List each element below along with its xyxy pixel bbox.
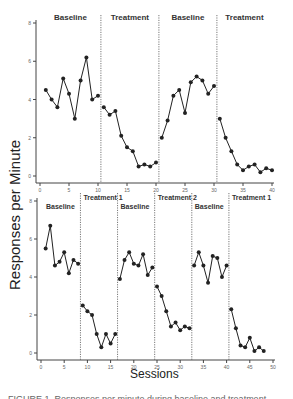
data-point <box>187 326 191 330</box>
data-point <box>262 349 266 353</box>
y-tick-label: 6 <box>29 236 32 242</box>
data-point <box>155 285 159 289</box>
data-point <box>132 262 136 266</box>
data-point <box>53 264 57 268</box>
y-tick-label: 2 <box>29 312 32 318</box>
data-point <box>119 134 123 138</box>
data-point <box>192 264 196 268</box>
x-tick-label: 15 <box>108 364 114 370</box>
data-point <box>67 271 71 275</box>
data-point <box>55 105 59 109</box>
y-axis-label: Responses per Minute <box>2 130 26 300</box>
phase-label: Treatment <box>225 13 264 22</box>
data-point <box>67 92 71 96</box>
data-line <box>162 77 214 138</box>
x-tick-label: 35 <box>201 364 207 370</box>
data-point <box>178 328 182 332</box>
data-point <box>270 168 274 172</box>
data-point <box>239 343 243 347</box>
x-tick-label: 20 <box>153 187 159 193</box>
data-point <box>71 258 75 262</box>
data-point <box>229 307 233 311</box>
data-point <box>225 264 229 268</box>
data-point <box>218 117 222 121</box>
data-point <box>183 111 187 115</box>
data-point <box>206 281 210 285</box>
data-line <box>46 57 98 118</box>
x-tick-label: 45 <box>247 364 253 370</box>
data-point <box>137 164 141 168</box>
data-point <box>136 264 140 268</box>
data-point <box>118 277 122 281</box>
data-point <box>76 262 80 266</box>
data-point <box>243 345 247 349</box>
data-point <box>104 332 108 336</box>
data-point <box>247 164 251 168</box>
figure: 024680510152025303540BaselineTreatmentBa… <box>0 0 293 399</box>
x-axis-label: Sessions <box>130 367 179 381</box>
data-point <box>183 324 187 328</box>
data-point <box>95 332 99 336</box>
data-point <box>215 256 219 260</box>
data-line <box>220 119 272 173</box>
data-point <box>189 80 193 84</box>
data-point <box>113 332 117 336</box>
data-point <box>90 98 94 102</box>
data-point <box>44 247 48 251</box>
data-point <box>241 168 245 172</box>
y-tick-label: 4 <box>28 97 31 103</box>
data-line <box>46 226 78 274</box>
data-point <box>174 321 178 325</box>
phase-label: Treatment 1 <box>232 194 271 201</box>
data-point <box>109 342 113 346</box>
x-tick-label: 40 <box>224 364 230 370</box>
phase-label: Baseline <box>54 13 87 22</box>
data-point <box>131 149 135 153</box>
x-tick-label: 30 <box>211 187 217 193</box>
bottom-panel: 0246805101520253035404550BaselineTreatme… <box>29 193 276 370</box>
data-point <box>148 164 152 168</box>
data-point <box>141 252 145 256</box>
data-point <box>61 76 65 80</box>
data-point <box>248 336 252 340</box>
data-point <box>125 145 129 149</box>
data-point <box>197 250 201 254</box>
data-point <box>234 326 238 330</box>
data-point <box>257 345 261 349</box>
y-tick-label: 6 <box>28 58 31 64</box>
x-tick-label: 10 <box>95 187 101 193</box>
data-point <box>48 224 52 228</box>
data-point <box>200 78 204 82</box>
y-tick-label: 2 <box>28 135 31 141</box>
data-point <box>258 170 262 174</box>
data-point <box>96 94 100 98</box>
data-point <box>85 309 89 313</box>
data-point <box>99 345 103 349</box>
data-point <box>253 163 257 167</box>
phase-label: Baseline <box>195 203 224 210</box>
y-tick-label: 0 <box>28 173 31 179</box>
data-point <box>58 260 62 264</box>
phase-label: Baseline <box>46 203 75 210</box>
data-point <box>224 136 228 140</box>
phase-label: Treatment 1 <box>83 194 122 201</box>
x-tick-label: 0 <box>40 364 43 370</box>
data-point <box>195 75 199 79</box>
x-tick-label: 25 <box>182 187 188 193</box>
data-point <box>62 250 66 254</box>
data-point <box>146 273 150 277</box>
data-point <box>154 161 158 165</box>
data-point <box>50 98 54 102</box>
data-point <box>102 105 106 109</box>
data-line <box>104 107 156 166</box>
data-point <box>90 313 94 317</box>
figure-caption: FIGURE 1. Responses per minute during ba… <box>8 393 288 399</box>
data-point <box>229 149 233 153</box>
data-point <box>206 92 210 96</box>
data-point <box>127 250 131 254</box>
x-tick-label: 5 <box>68 187 71 193</box>
data-point <box>169 324 173 328</box>
data-point <box>252 349 256 353</box>
phase-label: Baseline <box>121 203 150 210</box>
y-tick-label: 8 <box>29 198 32 204</box>
